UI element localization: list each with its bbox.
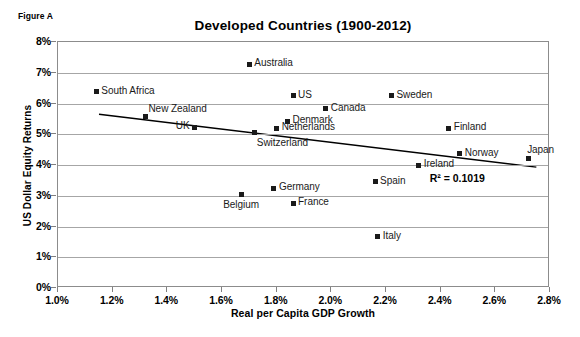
- data-point-label: Italy: [383, 230, 401, 241]
- data-point-label: US: [298, 89, 312, 100]
- y-tick-mark: [51, 72, 56, 73]
- x-tick-label: 2.4%: [412, 294, 468, 306]
- data-point-label: Australia: [254, 57, 292, 68]
- data-point-label: Germany: [279, 181, 320, 192]
- y-tick-label: 8%: [11, 35, 51, 47]
- x-tick-label: 2.8%: [521, 294, 577, 306]
- data-point-label: Denmark: [293, 114, 333, 125]
- data-point[interactable]: [94, 89, 99, 94]
- x-tick-label: 1.2%: [84, 294, 140, 306]
- data-point[interactable]: [239, 192, 244, 197]
- data-point[interactable]: [192, 125, 197, 130]
- data-point[interactable]: [285, 119, 290, 124]
- x-tick-mark: [494, 287, 495, 292]
- y-tick-mark: [51, 195, 56, 196]
- x-axis-title: Real per Capita GDP Growth: [57, 307, 549, 319]
- x-tick-mark: [549, 287, 550, 292]
- data-point[interactable]: [526, 156, 531, 161]
- data-point[interactable]: [389, 93, 394, 98]
- x-tick-mark: [276, 287, 277, 292]
- gridline-y: [58, 165, 548, 166]
- y-tick-mark: [51, 103, 56, 104]
- y-tick-mark: [51, 256, 56, 257]
- x-tick-mark: [57, 287, 58, 292]
- figure-caption: Figure A: [18, 11, 53, 21]
- data-point-label: Finland: [454, 121, 486, 132]
- x-tick-mark: [166, 287, 167, 292]
- x-tick-mark: [221, 287, 222, 292]
- data-point-label: Belgium: [223, 199, 259, 210]
- figure-root: Figure A Developed Countries (1900-2012)…: [0, 0, 580, 337]
- data-point-label: Norway: [465, 147, 499, 158]
- plot-area: South AfricaNew ZealandUKAustraliaBelgiu…: [57, 41, 549, 287]
- data-point[interactable]: [271, 186, 276, 191]
- data-point[interactable]: [373, 179, 378, 184]
- x-tick-label: 1.0%: [29, 294, 85, 306]
- x-tick-label: 1.8%: [248, 294, 304, 306]
- data-point[interactable]: [323, 106, 328, 111]
- data-point-label: Switzerland: [257, 137, 308, 148]
- x-tick-label: 1.6%: [193, 294, 249, 306]
- y-tick-label: 0%: [11, 281, 51, 293]
- data-point-label: Sweden: [396, 89, 432, 100]
- data-point-label: Spain: [380, 175, 405, 186]
- r-squared-annotation: R² = 0.1019: [430, 172, 485, 184]
- gridline-y: [58, 104, 548, 105]
- gridline-y: [58, 73, 548, 74]
- gridline-y: [58, 134, 548, 135]
- data-point[interactable]: [446, 126, 451, 131]
- data-point-label: France: [298, 196, 329, 207]
- x-tick-label: 2.6%: [466, 294, 522, 306]
- data-point[interactable]: [274, 126, 279, 131]
- y-tick-mark: [51, 226, 56, 227]
- data-point[interactable]: [247, 62, 252, 67]
- data-point-label: New Zealand: [148, 103, 206, 114]
- x-tick-label: 2.0%: [302, 294, 358, 306]
- data-point[interactable]: [291, 93, 296, 98]
- x-tick-mark: [112, 287, 113, 292]
- data-point[interactable]: [416, 163, 421, 168]
- y-tick-mark: [51, 133, 56, 134]
- data-point[interactable]: [375, 234, 380, 239]
- data-point-label: Ireland: [424, 158, 454, 169]
- x-tick-label: 2.2%: [357, 294, 413, 306]
- data-point[interactable]: [252, 130, 257, 135]
- data-point-label: South Africa: [101, 85, 154, 96]
- chart-title: Developed Countries (1900-2012): [57, 18, 549, 33]
- gridline-y: [58, 227, 548, 228]
- gridline-y: [58, 257, 548, 258]
- x-tick-mark: [385, 287, 386, 292]
- x-tick-mark: [330, 287, 331, 292]
- y-tick-mark: [51, 164, 56, 165]
- data-point[interactable]: [457, 151, 462, 156]
- y-axis-title: US Dollar Equity Returns: [22, 66, 33, 266]
- data-point[interactable]: [143, 114, 148, 119]
- y-tick-mark: [51, 287, 56, 288]
- x-tick-label: 1.4%: [138, 294, 194, 306]
- x-tick-mark: [440, 287, 441, 292]
- y-tick-mark: [51, 41, 56, 42]
- data-point-label: UK: [176, 120, 190, 131]
- data-point[interactable]: [291, 201, 296, 206]
- data-point-label: Canada: [331, 102, 366, 113]
- data-point-label: Japan: [527, 144, 554, 155]
